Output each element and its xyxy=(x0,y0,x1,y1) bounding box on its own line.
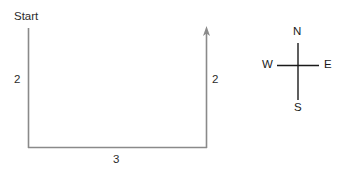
segment-right-length-label: 2 xyxy=(212,74,218,86)
segment-left-length-label: 2 xyxy=(14,74,20,86)
compass-west-label: W xyxy=(262,59,273,71)
compass-south-label: S xyxy=(294,102,302,114)
path-drawing xyxy=(0,0,341,176)
compass-east-label: E xyxy=(324,59,332,71)
diagram-canvas: Start 2 3 2 N E S W xyxy=(0,0,341,176)
compass-north-label: N xyxy=(293,26,301,38)
start-label: Start xyxy=(14,11,38,23)
segment-bottom-length-label: 3 xyxy=(113,154,119,166)
